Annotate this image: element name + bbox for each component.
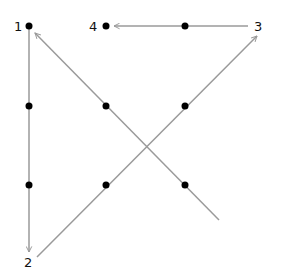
dot-5	[103, 103, 110, 110]
arrow-line-4	[35, 33, 219, 220]
step-labels: 1234	[14, 19, 262, 270]
label-3: 3	[254, 19, 262, 34]
nine-dots-diagram: 1234	[0, 0, 284, 276]
dot-6	[182, 103, 189, 110]
dot-1	[26, 23, 33, 30]
dot-8	[103, 182, 110, 189]
path-lines	[29, 26, 257, 257]
dot-7	[26, 182, 33, 189]
dot-4	[26, 103, 33, 110]
label-4: 4	[89, 19, 97, 34]
label-1: 1	[14, 19, 22, 34]
dot-2	[103, 23, 110, 30]
dot-3	[182, 23, 189, 30]
dot-9	[182, 182, 189, 189]
label-2: 2	[24, 255, 32, 270]
